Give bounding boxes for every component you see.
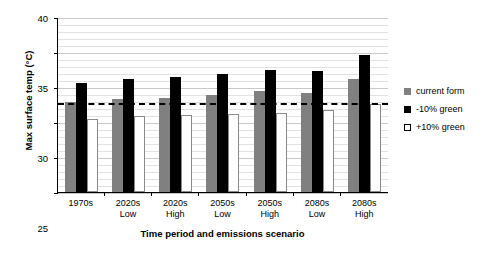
y-axis-tick-label: 25	[37, 223, 48, 234]
x-axis-tick-label-line: High	[246, 209, 293, 220]
x-axis-tick	[104, 192, 105, 196]
x-axis-title: Time period and emissions scenario	[57, 228, 388, 239]
bar-plus	[87, 119, 98, 192]
x-axis-tick-label-line: Low	[293, 209, 340, 220]
bar-current	[112, 99, 123, 192]
gridline-major	[58, 193, 388, 194]
bar-group	[58, 18, 105, 192]
bar-plus	[134, 116, 145, 192]
bar-minus	[359, 55, 370, 192]
bar-group	[105, 18, 152, 192]
x-axis-tick	[340, 192, 341, 196]
y-axis-title: Max surface temp (°C)	[23, 11, 34, 191]
x-axis-tick-label: 2080sLow	[293, 198, 340, 220]
bar-groups	[58, 18, 388, 192]
x-axis-tick-label-line: 2050s	[199, 198, 246, 209]
bar-group	[294, 18, 341, 192]
x-axis-tick-label-line: High	[341, 209, 388, 220]
legend-swatch-icon	[404, 124, 411, 131]
x-axis-tick-label-line	[57, 209, 104, 220]
bar-current	[159, 98, 170, 193]
bar-current	[348, 79, 359, 192]
bar-current	[254, 91, 265, 193]
bar-minus	[265, 70, 276, 193]
bar-minus	[123, 79, 134, 192]
legend-swatch-icon	[404, 106, 411, 113]
bar-current	[301, 93, 312, 192]
bar-plus	[181, 115, 192, 192]
y-axis-tick-label: 30	[37, 153, 48, 164]
y-axis-tick-label: 35	[37, 83, 48, 94]
x-axis-tick-label-line: 2080s	[341, 198, 388, 209]
bar-chart: Max surface temp (°C) 152025303540 1970s…	[0, 0, 496, 258]
x-axis-tick-label-line: Low	[104, 209, 151, 220]
bar-group	[152, 18, 199, 192]
x-axis-tick-label-line: 2020s	[104, 198, 151, 209]
bar-group	[199, 18, 246, 192]
legend: current form-10% green+10% green	[404, 86, 465, 140]
x-axis-tick-label-line: High	[152, 209, 199, 220]
x-axis-tick-label: 2020sLow	[104, 198, 151, 220]
x-axis-tick-label-line: 2080s	[293, 198, 340, 209]
y-axis-tick-label: 40	[37, 13, 48, 24]
x-axis-tick-label-line: Low	[199, 209, 246, 220]
bar-minus	[170, 77, 181, 193]
legend-label: +10% green	[416, 122, 465, 132]
plot-area: 152025303540	[57, 18, 388, 193]
bar-group	[247, 18, 294, 192]
bar-minus	[76, 83, 87, 192]
bar-minus	[217, 74, 228, 192]
bar-current	[206, 95, 217, 192]
bar-plus	[323, 110, 334, 192]
x-axis-tick-label-line: 1970s	[57, 198, 104, 209]
bar-plus	[228, 114, 239, 192]
legend-item: +10% green	[404, 122, 465, 132]
x-axis-tick	[246, 192, 247, 196]
bar-current	[65, 102, 76, 192]
x-axis-tick-labels: 1970s 2020sLow2020sHigh2050sLow2050sHigh…	[57, 198, 388, 220]
legend-label: -10% green	[416, 104, 463, 114]
x-axis-tick-label: 1970s	[57, 198, 104, 220]
x-axis-tick-label: 2020sHigh	[152, 198, 199, 220]
bar-plus	[276, 113, 287, 192]
legend-item: current form	[404, 86, 465, 96]
reference-line	[58, 103, 388, 105]
bar-group	[341, 18, 388, 192]
x-axis-tick-label-line: 2020s	[152, 198, 199, 209]
legend-label: current form	[416, 86, 465, 96]
bar-plus	[370, 104, 381, 192]
legend-swatch-icon	[404, 88, 411, 95]
y-axis-tick: 15	[54, 193, 58, 194]
bar-minus	[312, 71, 323, 192]
x-axis-tick-label: 2080sHigh	[341, 198, 388, 220]
legend-item: -10% green	[404, 104, 465, 114]
x-axis-tick-label-line: 2050s	[246, 198, 293, 209]
x-axis-tick	[151, 192, 152, 196]
x-axis-tick-label: 2050sLow	[199, 198, 246, 220]
x-axis-tick	[198, 192, 199, 196]
x-axis-tick	[293, 192, 294, 196]
x-axis-tick-label: 2050sHigh	[246, 198, 293, 220]
